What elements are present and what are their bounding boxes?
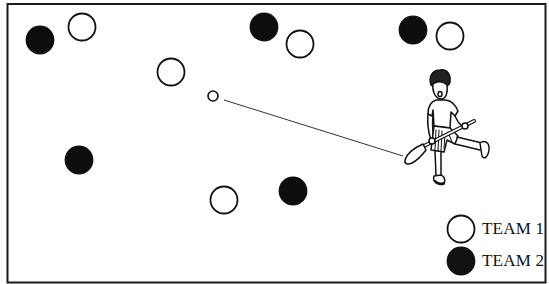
team2-player-marker xyxy=(251,14,278,41)
team1-player-marker xyxy=(287,31,314,58)
team2-player-marker xyxy=(27,27,54,54)
legend-team2-swatch xyxy=(448,248,475,275)
legend-team1-swatch xyxy=(448,216,475,243)
team1-player-marker xyxy=(437,23,464,50)
pitch-diagram xyxy=(0,0,549,284)
legend-team2-label: TEAM 2 xyxy=(482,251,544,271)
team1-player-marker xyxy=(158,59,185,86)
team2-player-marker xyxy=(280,178,307,205)
team1-player-marker xyxy=(211,187,238,214)
ball xyxy=(208,91,218,101)
team2-player-marker xyxy=(66,147,93,174)
team2-player-marker xyxy=(400,17,427,44)
legend-team1-label: TEAM 1 xyxy=(482,219,544,239)
team1-player-marker xyxy=(69,14,96,41)
